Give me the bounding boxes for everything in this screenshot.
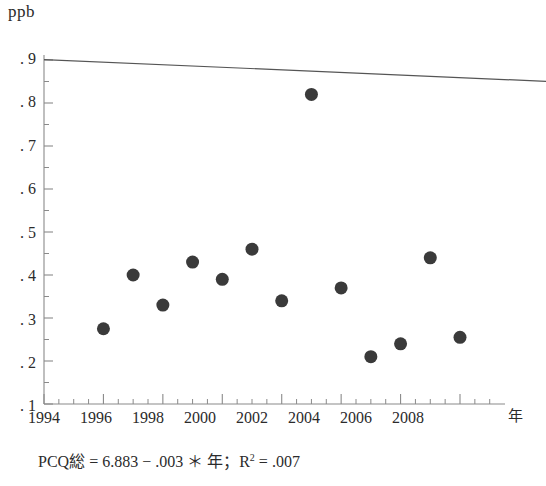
plot-area — [0, 0, 546, 486]
trendline — [44, 60, 546, 82]
data-point — [275, 294, 288, 307]
chart-figure: ppb 年 . 9 . 8 . 7 . 6 . 5 . 4 . 3 . 2 . … — [0, 0, 546, 486]
data-point — [394, 337, 407, 350]
data-point — [97, 322, 110, 335]
data-points — [97, 88, 467, 363]
data-point — [127, 269, 140, 282]
data-point — [156, 299, 169, 312]
data-point — [454, 331, 467, 344]
data-point — [305, 88, 318, 101]
data-point — [186, 256, 199, 269]
y-axis-ticks — [44, 60, 53, 404]
data-point — [364, 350, 377, 363]
data-point — [246, 243, 259, 256]
data-point — [424, 251, 437, 264]
axis-lines — [44, 55, 505, 404]
x-axis-ticks — [44, 394, 490, 404]
trendline-path — [44, 60, 546, 82]
data-point — [216, 273, 229, 286]
data-point — [335, 281, 348, 294]
